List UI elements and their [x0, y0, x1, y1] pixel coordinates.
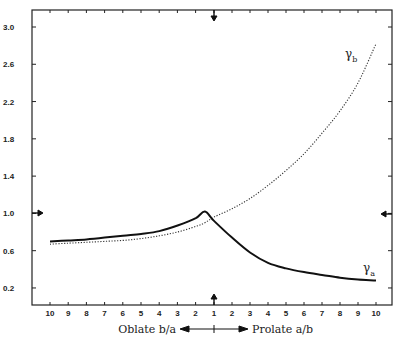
- oblate-label: Oblate b/a: [118, 323, 176, 336]
- y-tick-label: 0.2: [3, 284, 15, 293]
- x-tick-label: 2: [193, 309, 198, 318]
- top-arrow-icon: [211, 10, 217, 21]
- x-tick-label: 4: [157, 309, 162, 318]
- y-tick-label: 2.6: [3, 60, 15, 69]
- y-tick-label: 1.8: [3, 135, 15, 144]
- x-tick-label: 8: [338, 309, 343, 318]
- x-tick-label: 2: [230, 309, 235, 318]
- x-tick-label: 1: [212, 309, 217, 318]
- y-tick-label: 1.4: [3, 172, 15, 181]
- x-tick-label: 3: [175, 309, 180, 318]
- y-tick-label: 3.0: [3, 23, 15, 32]
- x-tick-label: 4: [266, 309, 271, 318]
- gamma-a-curve: [50, 211, 376, 280]
- y-tick-label: 2.2: [3, 98, 15, 107]
- x-tick-label: 3: [248, 309, 253, 318]
- plot-frame: [32, 10, 392, 305]
- left-arrow-icon: [32, 210, 43, 216]
- x-tick-label: 8: [84, 309, 89, 318]
- x-tick-label: 6: [302, 309, 307, 318]
- double-arrow-icon: [180, 325, 248, 333]
- x-tick-label: 6: [121, 309, 126, 318]
- gamma-b-label: γb: [345, 47, 357, 64]
- x-tick-label: 10: [372, 309, 381, 318]
- x-tick-label: 7: [102, 309, 107, 318]
- gamma-a-label: γa: [363, 261, 375, 278]
- x-tick-label: 7: [320, 309, 325, 318]
- x-tick-label: 5: [284, 309, 289, 318]
- x-tick-label: 5: [139, 309, 144, 318]
- y-tick-label: 0.6: [3, 247, 15, 256]
- x-tick-label: 9: [66, 309, 71, 318]
- y-tick-label: 1.0: [3, 209, 15, 218]
- x-tick-label: 9: [356, 309, 361, 318]
- marker-arrows: [32, 10, 392, 305]
- right-arrow-icon: [381, 211, 392, 217]
- chart: 3.02.62.21.81.41.00.60.2 109876543212345…: [0, 0, 405, 343]
- gamma-b-curve: [50, 44, 376, 244]
- y-axis: 3.02.62.21.81.41.00.60.2: [3, 23, 36, 293]
- x-tick-label: 10: [46, 309, 55, 318]
- prolate-label: Prolate a/b: [252, 323, 313, 336]
- bottom-arrow-icon: [211, 294, 217, 305]
